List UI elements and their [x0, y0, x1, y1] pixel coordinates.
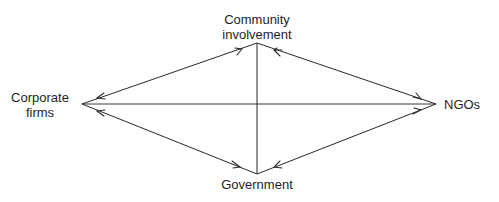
node-label-line: Corporate — [2, 90, 78, 105]
edge-government-corporate — [82, 104, 257, 174]
edge-corporate-community — [82, 43, 257, 104]
node-label-line: Community — [207, 12, 307, 27]
node-label-line: firms — [2, 105, 78, 120]
node-community-involvement: Community involvement — [207, 12, 307, 42]
edge-community-ngos — [257, 43, 436, 104]
node-corporate-firms: Corporate firms — [2, 90, 78, 120]
edge-ngos-government — [257, 104, 436, 174]
node-label-line: Government — [207, 177, 307, 192]
node-ngos: NGOs — [444, 97, 494, 112]
node-label-line: NGOs — [444, 97, 494, 112]
arrowhead-icon — [413, 93, 421, 99]
arrowhead-icon — [235, 48, 242, 55]
node-government: Government — [207, 177, 307, 192]
arrowhead-icon — [274, 48, 282, 56]
node-label-line: involvement — [207, 27, 307, 42]
